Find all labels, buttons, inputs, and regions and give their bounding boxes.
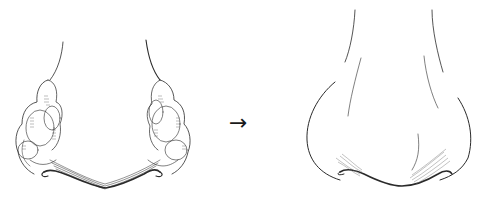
arrow-icon: →: [229, 112, 247, 134]
figure-canvas: →: [0, 0, 483, 200]
before-nose-illustration: [0, 0, 483, 200]
